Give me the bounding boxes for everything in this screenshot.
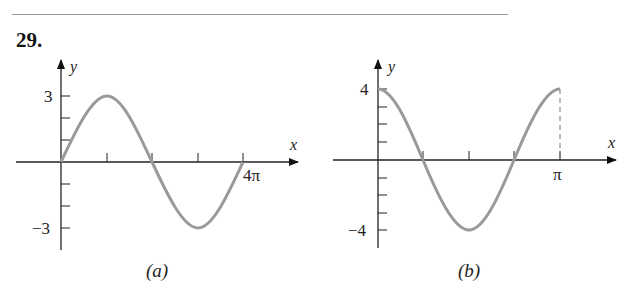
graph-a: y x 3 −3 4π <box>16 58 298 250</box>
y-min-label-a: −3 <box>32 219 50 238</box>
x-end-label-b: π <box>553 165 562 184</box>
caption-a: (a) <box>146 260 168 282</box>
x-end-label-a: 4π <box>243 166 261 185</box>
y-max-label-a: 3 <box>44 87 53 106</box>
graphs-figure: y x 3 −3 4π y x 4 −4 π <box>0 0 631 289</box>
x-axis-label-b: x <box>607 134 615 151</box>
y-axis-label-b: y <box>386 58 396 76</box>
y-axis-label-a: y <box>68 58 78 76</box>
caption-b: (b) <box>458 260 480 282</box>
y-max-label-b: 4 <box>360 80 369 99</box>
x-axis-label-a: x <box>289 136 297 153</box>
y-min-label-b: −4 <box>348 221 367 240</box>
graph-b: y x 4 −4 π <box>333 58 616 248</box>
